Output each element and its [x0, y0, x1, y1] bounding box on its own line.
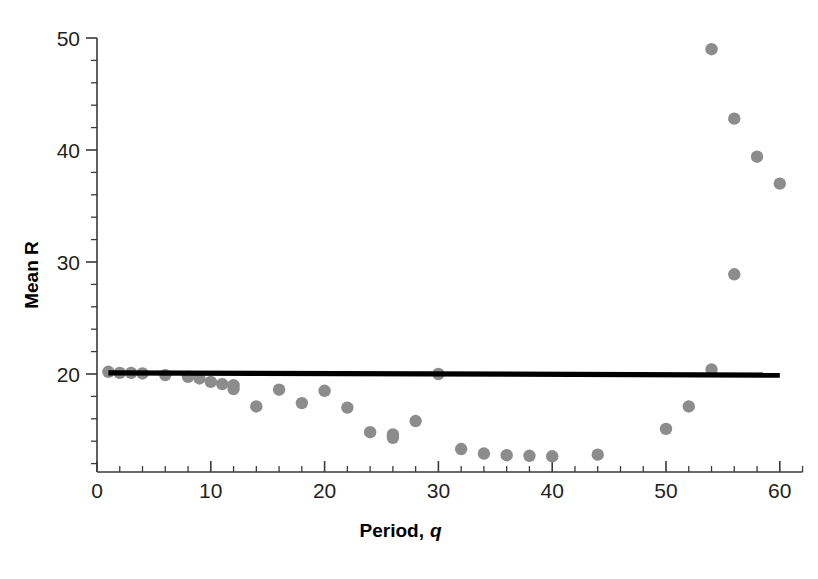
axis-ticks: [86, 38, 803, 472]
x-axis-title-main: Period,: [360, 520, 424, 541]
x-tick-label: 30: [427, 479, 450, 502]
data-point: [728, 112, 740, 124]
data-point: [774, 177, 786, 189]
y-tick-label: 20: [57, 363, 80, 386]
x-tick-label: 10: [199, 479, 222, 502]
axis-tick-labels: 203040500102030405060: [57, 27, 792, 502]
x-tick-label: 0: [91, 479, 103, 502]
data-point: [455, 443, 467, 455]
data-point: [751, 151, 763, 163]
data-point: [546, 450, 558, 462]
data-point: [728, 268, 740, 280]
x-axis-title: Period, q: [360, 520, 442, 541]
data-point: [318, 385, 330, 397]
data-points: [102, 43, 786, 463]
x-tick-label: 20: [313, 479, 336, 502]
data-point: [523, 450, 535, 462]
x-tick-label: 60: [768, 479, 791, 502]
y-axis-title: Mean R: [21, 241, 42, 309]
data-point: [683, 400, 695, 412]
chart-figure: 203040500102030405060 Mean R Period, q: [0, 0, 818, 579]
x-axis-title-variable: q: [430, 520, 442, 541]
data-point: [478, 447, 490, 459]
x-tick-label: 50: [654, 479, 677, 502]
data-point: [409, 415, 421, 427]
y-tick-label: 50: [57, 27, 80, 50]
data-point: [705, 43, 717, 55]
data-point: [296, 397, 308, 409]
data-point: [500, 449, 512, 461]
fit-line: [108, 373, 779, 375]
data-point: [341, 401, 353, 413]
y-axis-title-text: Mean R: [21, 241, 42, 309]
data-point: [364, 426, 376, 438]
data-point: [205, 376, 217, 388]
data-point: [660, 423, 672, 435]
scatter-plot: 203040500102030405060 Mean R Period, q: [0, 0, 818, 579]
y-tick-label: 40: [57, 139, 80, 162]
axes: [97, 38, 803, 472]
x-tick-label: 40: [541, 479, 564, 502]
y-tick-label: 30: [57, 251, 80, 274]
data-point: [216, 378, 228, 390]
data-point: [387, 432, 399, 444]
data-point: [227, 383, 239, 395]
data-point: [592, 448, 604, 460]
data-point: [273, 383, 285, 395]
data-point: [250, 400, 262, 412]
trend-line: [108, 373, 779, 375]
